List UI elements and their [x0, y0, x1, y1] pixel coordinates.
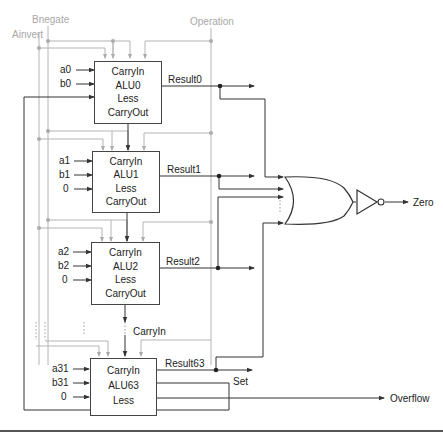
alu63-input-b: b31 — [52, 377, 69, 388]
binvert-label: Bnegate — [32, 14, 69, 25]
alu63-block: CarryIn ALU63 Less — [90, 358, 157, 416]
ainvert-label: Ainvert — [12, 29, 43, 40]
alu0-port-carryout: CarryOut — [108, 107, 149, 119]
alu1-name: ALU1 — [113, 169, 138, 181]
alu63-port-carryin: CarryIn — [107, 365, 140, 377]
result0-label: Result0 — [168, 74, 202, 85]
alu63-input-a: a31 — [52, 363, 69, 374]
page-rule — [0, 430, 443, 432]
alu63-name: ALU63 — [108, 380, 139, 392]
alu1-port-carryout: CarryOut — [106, 196, 147, 208]
alu2-name: ALU2 — [113, 261, 138, 273]
alu2-block: CarryIn ALU2 Less CarryOut — [91, 242, 160, 305]
operation-label: Operation — [190, 16, 234, 27]
inverter-bubble — [378, 199, 384, 205]
alu2-port-carryout: CarryOut — [105, 288, 146, 300]
alu2-input-b: b2 — [58, 260, 69, 271]
result63-label: Result63 — [165, 358, 204, 369]
alu1-input-a: a1 — [59, 155, 70, 166]
set-output-label: Set — [233, 376, 248, 387]
alu0-port-carryin: CarryIn — [112, 66, 145, 78]
alu2-port-carryin: CarryIn — [109, 247, 142, 259]
alu1-port-less: Less — [115, 183, 136, 195]
alu0-input-a: a0 — [60, 64, 71, 75]
alu2-input-less: 0 — [62, 274, 68, 285]
alu1-input-less: 0 — [63, 183, 69, 194]
alu63-input-less: 0 — [61, 391, 67, 402]
or-gate — [285, 177, 353, 225]
alu2-input-a: a2 — [58, 246, 69, 257]
alu0-name: ALU0 — [115, 80, 140, 92]
overflow-output-label: Overflow — [390, 393, 429, 404]
data-wires — [24, 70, 408, 410]
alu1-input-b: b1 — [59, 169, 70, 180]
alu1-port-carryin: CarryIn — [110, 156, 143, 168]
zero-output-label: Zero — [413, 197, 434, 208]
alu0-port-less: Less — [117, 93, 138, 105]
alu2-port-less: Less — [115, 274, 136, 286]
carryin-label: CarryIn — [133, 326, 166, 337]
result2-label: Result2 — [166, 256, 200, 267]
alu63-port-less: Less — [113, 395, 134, 407]
result1-label: Result1 — [167, 164, 201, 175]
alu0-block: CarryIn ALU0 Less CarryOut — [94, 61, 162, 124]
alu0-input-b: b0 — [60, 78, 71, 89]
not-gate — [357, 190, 377, 214]
alu1-block: CarryIn ALU1 Less CarryOut — [92, 151, 160, 213]
